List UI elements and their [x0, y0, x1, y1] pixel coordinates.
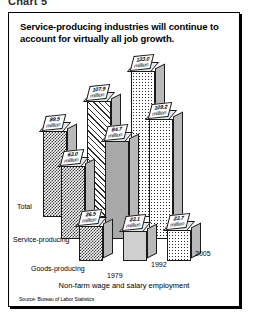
bar-front-face: [167, 230, 191, 261]
bar-goods-1992: [123, 231, 153, 261]
value-unit: million: [133, 62, 149, 69]
row-label-service: Service-producing: [13, 236, 69, 243]
year-label-1979: 1979: [107, 272, 123, 279]
year-label-1992: 1992: [151, 261, 167, 268]
bar-goods-1979: [79, 226, 109, 261]
value-unit: million: [63, 157, 79, 164]
source-note: Source: Bureau of Labor Statistics: [19, 296, 94, 302]
bar-goods-2005: [167, 230, 197, 261]
bar-side-face: [103, 219, 113, 259]
bar-side-face: [147, 224, 157, 259]
value-unit: million: [169, 221, 185, 228]
year-label-2005: 2005: [195, 250, 211, 257]
chart-frame: Service-producing industries will contin…: [8, 12, 240, 307]
value-unit: million: [151, 110, 167, 117]
bar-front-face: [79, 226, 103, 261]
value-unit: million: [81, 217, 97, 224]
row-label-total: Total: [17, 203, 32, 210]
axis-caption: Non-farm wage and salary employment: [9, 281, 239, 290]
row-label-goods: Goods-producing: [31, 265, 85, 272]
value-unit: million: [107, 132, 123, 139]
value-unit: million: [45, 122, 61, 129]
chart-title: Service-producing industries will contin…: [20, 21, 228, 45]
chart-plot-area: 89.5 million 107.9 million 133.0 million…: [9, 53, 239, 268]
chart-number-heading: Chart 5: [8, 0, 47, 6]
value-unit: million: [125, 222, 141, 229]
bar-front-face: [123, 231, 147, 261]
value-unit: million: [89, 92, 105, 99]
